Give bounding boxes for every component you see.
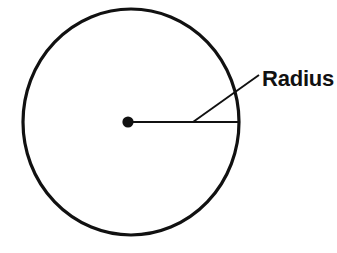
diagram-canvas: Radius bbox=[0, 0, 337, 253]
center-point-dot bbox=[122, 116, 133, 127]
radius-label: Radius bbox=[262, 66, 334, 91]
circle-radius-diagram: Radius bbox=[0, 0, 337, 253]
leader-line bbox=[193, 75, 259, 122]
